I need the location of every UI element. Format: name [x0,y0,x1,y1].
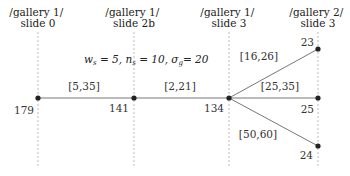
edge-label-141-134: [2,21] [164,80,196,92]
node-label-24: 24 [300,149,314,161]
edge-label-134-24: [50,60] [239,128,277,140]
node-134 [226,95,231,100]
parameter-formula: ws = 5, ns = 10, σg= 20 [84,53,209,67]
node-label-134: 134 [204,102,224,114]
node-label-179: 179 [14,104,34,116]
node-label-141: 141 [109,102,129,114]
column-header-2: /gallery 1/ slide 3 [200,6,257,29]
node-179 [35,95,40,100]
node-label-23: 23 [301,36,314,48]
column-header-1: /gallery 1/ slide 2b [105,6,162,29]
column-header-0: /gallery 1/ slide 0 [9,6,66,29]
node-24 [315,143,320,148]
column-header-3: /gallery 2/ slide 3 [289,6,346,29]
edge-label-134-25: [25,35] [261,80,299,92]
edge-label-134-23: [16,26] [240,50,278,62]
node-141 [131,95,136,100]
node-label-25: 25 [301,103,314,115]
edge-label-179-141: [5,35] [68,80,100,92]
timeline-tree-diagram: /gallery 1/ slide 0 /gallery 1/ slide 2b… [0,0,350,176]
node-25 [315,95,320,100]
node-23 [315,46,320,51]
column-headers: /gallery 1/ slide 0 /gallery 1/ slide 2b… [9,6,346,29]
